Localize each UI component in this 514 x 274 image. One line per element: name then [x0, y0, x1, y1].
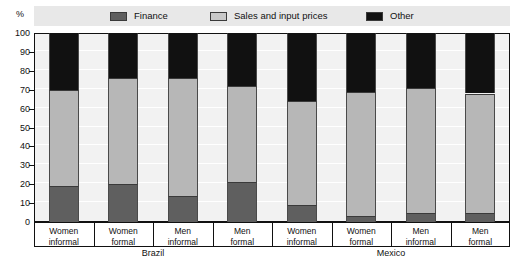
bar-segment-other [406, 33, 436, 88]
y-axis-tick-label: 60 [6, 104, 30, 114]
category-label-line1: Men [234, 226, 251, 236]
legend-label-other: Other [390, 11, 414, 21]
group-label-mexico: Mexico [272, 248, 510, 258]
legend-label-finance: Finance [134, 11, 168, 21]
category-label-line1: Men [412, 226, 429, 236]
bar-segment-finance [287, 205, 317, 222]
bar-segment-sales [49, 90, 79, 186]
y-axis-tick-label: 40 [6, 141, 30, 151]
bars-layer [34, 33, 510, 222]
y-axis-tick-label: 10 [6, 198, 30, 208]
bar-segment-finance [49, 186, 79, 222]
y-axis-tick-label: 0 [6, 217, 30, 227]
group-separator-rule [272, 246, 510, 247]
y-axis-tick-label: 30 [6, 160, 30, 170]
bar-0 [49, 33, 79, 222]
bar-segment-finance [465, 213, 495, 222]
y-axis-unit-label: % [16, 9, 24, 19]
x-axis-category-label: Menformal [213, 226, 271, 247]
category-label-line1: Women [109, 226, 138, 236]
bar-segment-other [346, 33, 376, 92]
legend-label-sales: Sales and input prices [234, 11, 327, 21]
x-axis-category-label: Womenformal [332, 226, 390, 247]
bar-segment-sales [227, 86, 257, 182]
bar-segment-sales [287, 101, 317, 205]
category-label-line1: Women [287, 226, 316, 236]
legend-item-sales: Sales and input prices [210, 10, 327, 22]
category-label-line1: Women [347, 226, 376, 236]
legend-item-finance: Finance [110, 10, 168, 22]
bar-segment-finance [227, 182, 257, 222]
bar-3 [227, 33, 257, 222]
x-axis-categories: WomeninformalWomenformalMeninformalMenfo… [34, 222, 510, 274]
bar-segment-sales [168, 78, 198, 195]
x-axis-category-label: Meninformal [392, 226, 450, 247]
bar-segment-finance [406, 213, 436, 222]
y-axis-tick-label: 80 [6, 66, 30, 76]
group-label-brazil: Brazil [34, 248, 272, 258]
bar-segment-finance [168, 196, 198, 222]
bar-segment-other [287, 33, 317, 101]
category-label-line1: Women [49, 226, 78, 236]
category-label-line1: Men [472, 226, 489, 236]
bar-segment-sales [108, 78, 138, 184]
bar-6 [406, 33, 436, 222]
bar-1 [108, 33, 138, 222]
chart-legend: Finance Sales and input prices Other [34, 6, 510, 26]
legend-swatch-finance-icon [110, 12, 127, 21]
bar-5 [346, 33, 376, 222]
legend-item-other: Other [366, 10, 414, 22]
x-axis-category-label: Womeninformal [273, 226, 331, 247]
chart-figure: % Finance Sales and input prices Other 0… [0, 0, 514, 274]
y-axis-tick-label: 70 [6, 85, 30, 95]
x-axis-category-label: Womeninformal [35, 226, 93, 247]
x-axis-category-label: Meninformal [154, 226, 212, 247]
bar-segment-other [108, 33, 138, 78]
y-axis-tick-label: 90 [6, 47, 30, 57]
bar-segment-sales [406, 88, 436, 213]
bar-segment-other [227, 33, 257, 86]
bar-7 [465, 33, 495, 222]
bar-segment-other [49, 33, 79, 90]
x-axis-category-label: Womenformal [94, 226, 152, 247]
y-axis-tick-label: 20 [6, 179, 30, 189]
x-axis-category-label: Menformal [451, 226, 509, 247]
bar-segment-sales [465, 94, 495, 213]
category-label-line1: Men [174, 226, 191, 236]
bar-segment-finance [108, 184, 138, 222]
bar-segment-other [465, 33, 495, 93]
y-axis-tick-label: 50 [6, 123, 30, 133]
bar-segment-sales [346, 92, 376, 217]
y-axis-tick-label: 100 [6, 28, 30, 38]
legend-swatch-other-icon [366, 12, 383, 21]
bar-segment-other [168, 33, 198, 78]
bar-4 [287, 33, 317, 222]
bar-2 [168, 33, 198, 222]
legend-swatch-sales-icon [210, 12, 227, 21]
group-separator-rule [34, 246, 272, 247]
